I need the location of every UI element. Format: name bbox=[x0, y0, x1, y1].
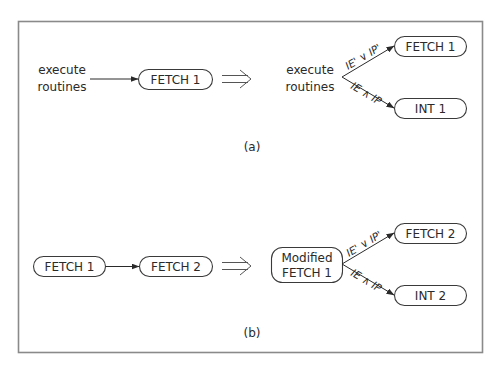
state-transition-diagram: execute routines FETCH 1 execute routine… bbox=[0, 0, 503, 370]
panel-caption: (b) bbox=[244, 326, 261, 340]
state-node-label-line2: FETCH 1 bbox=[282, 266, 332, 280]
branch-condition: IE ∧ IP bbox=[349, 266, 385, 294]
state-node-label: FETCH 1 bbox=[151, 73, 201, 87]
panel-caption: (a) bbox=[244, 140, 261, 154]
state-node-label: FETCH 2 bbox=[406, 227, 456, 241]
state-node-label: INT 2 bbox=[415, 289, 446, 303]
state-node-label: INT 1 bbox=[415, 102, 446, 116]
source-label-line1: execute bbox=[38, 63, 86, 77]
state-node-label: FETCH 1 bbox=[406, 40, 456, 54]
source-label-line2: routines bbox=[286, 80, 335, 94]
branch-condition: IE' ∨ IP' bbox=[344, 228, 384, 258]
source-label-line2: routines bbox=[38, 80, 87, 94]
state-node-label: FETCH 2 bbox=[151, 260, 201, 274]
source-label-line1: execute bbox=[286, 63, 334, 77]
panel-b: FETCH 1 FETCH 2 Modified FETCH 1 IE' ∨ I… bbox=[34, 224, 467, 341]
double-arrow-icon bbox=[222, 257, 251, 275]
panel-a: execute routines FETCH 1 execute routine… bbox=[38, 37, 467, 155]
state-node-label: FETCH 1 bbox=[45, 260, 95, 274]
state-node-label-line1: Modified bbox=[281, 251, 332, 265]
branch-condition: IE ∧ IP bbox=[349, 79, 385, 107]
double-arrow-icon bbox=[222, 70, 251, 88]
